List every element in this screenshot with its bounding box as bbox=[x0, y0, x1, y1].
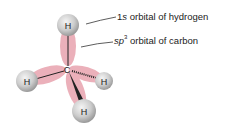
svg-text:H: H bbox=[101, 77, 108, 87]
carbon-atom: C bbox=[64, 65, 71, 75]
label-sp3-orbital-carbon: sp3 orbital of carbon bbox=[114, 35, 198, 46]
label-1s-orbital-hydrogen: 1s orbital of hydrogen bbox=[117, 11, 208, 22]
svg-text:H: H bbox=[24, 77, 31, 87]
leader-line-carbon bbox=[81, 42, 113, 47]
hydrogen-top: H bbox=[57, 14, 79, 36]
svg-text:H: H bbox=[65, 21, 72, 31]
hydrogen-bottom: H bbox=[72, 99, 96, 123]
hydrogen-right: H bbox=[95, 72, 113, 90]
hydrogen-left: H bbox=[16, 70, 38, 92]
svg-text:H: H bbox=[81, 107, 88, 117]
leader-line-hydrogen bbox=[86, 17, 116, 24]
